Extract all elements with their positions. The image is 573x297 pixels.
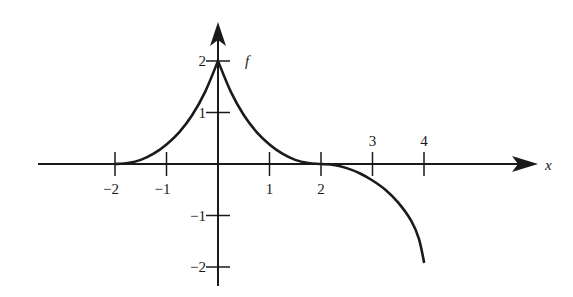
y-tick-label: 2 xyxy=(199,53,207,69)
x-tick-label: 2 xyxy=(317,181,325,197)
function-label: f xyxy=(245,53,251,69)
x-axis-label: x xyxy=(544,157,552,173)
y-tick-label: 1 xyxy=(199,105,207,121)
x-tick-label: 4 xyxy=(420,133,428,149)
y-tick-label: −2 xyxy=(190,259,206,275)
x-tick-label: −2 xyxy=(103,181,119,197)
y-tick-label: −1 xyxy=(190,208,206,224)
function-graph: −2−11234 21−1−2 x f xyxy=(0,0,573,297)
x-tick-label: 3 xyxy=(369,133,377,149)
axes xyxy=(38,40,520,286)
x-tick-label: 1 xyxy=(266,181,274,197)
x-tick-label: −1 xyxy=(155,181,171,197)
